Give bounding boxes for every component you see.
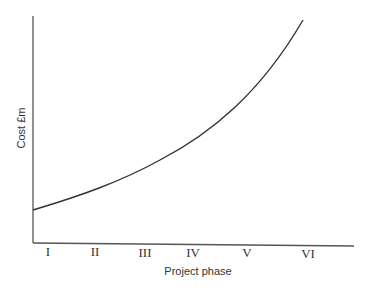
chart: I II III IV V VI Project phase Cost £m (0, 0, 372, 293)
cost-curve (33, 20, 303, 210)
y-axis-label: Cost £m (15, 108, 27, 149)
x-tick-6: VI (301, 246, 315, 261)
x-tick-2: II (91, 244, 100, 259)
x-tick-3: III (139, 245, 152, 260)
x-tick-1: I (46, 244, 50, 259)
x-tick-5: V (242, 245, 252, 260)
x-axis-label: Project phase (164, 265, 231, 277)
x-tick-4: IV (186, 245, 200, 260)
